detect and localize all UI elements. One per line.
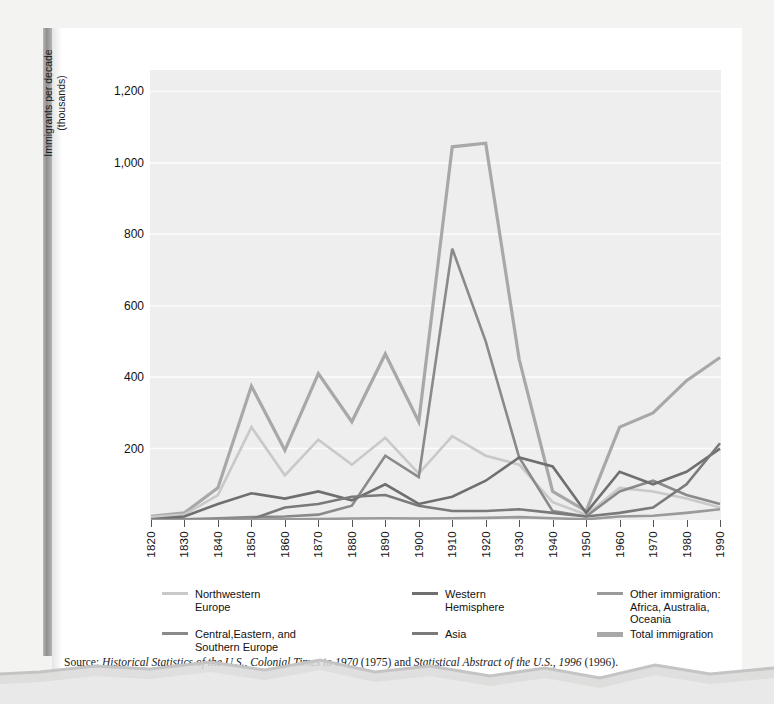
x-tick-mark [285, 520, 286, 527]
x-tick-label: 1820 [145, 531, 157, 558]
chart-legend: Northwestern EuropeWestern HemisphereOth… [162, 588, 722, 650]
x-tick-mark [553, 520, 554, 527]
y-axis-tick-labels: 2004006008001,0001,200 [92, 70, 144, 520]
x-tick-label: 1950 [580, 531, 592, 558]
y-tick-label: 400 [98, 371, 144, 383]
legend-label: Central,Eastern, and Southern Europe [195, 628, 296, 653]
legend-label: Asia [445, 628, 466, 641]
x-tick-mark [687, 520, 688, 527]
y-tick-label: 1,200 [98, 85, 144, 97]
x-tick-label: 1860 [279, 531, 291, 558]
x-tick-mark [151, 520, 152, 527]
x-tick-mark [519, 520, 520, 527]
x-tick-mark [385, 520, 386, 527]
x-tick-mark [318, 520, 319, 527]
y-tick-label: 1,000 [98, 157, 144, 169]
plot-area [150, 70, 721, 520]
x-tick-label: 1890 [379, 531, 391, 558]
x-tick-mark [486, 520, 487, 527]
legend-color-swatch [412, 632, 438, 635]
legend-label: Total immigration [630, 628, 713, 641]
x-tick-label: 1840 [212, 531, 224, 558]
decorative-mountain-band [0, 656, 774, 704]
x-tick-label: 1880 [346, 531, 358, 558]
y-axis-title: Immigrants per decade (thousands) [42, 18, 68, 188]
series-line [151, 427, 720, 517]
legend-color-swatch [162, 632, 188, 635]
legend-label: Western Hemisphere [445, 588, 504, 613]
x-tick-label: 1960 [614, 531, 626, 558]
x-tick-mark [620, 520, 621, 527]
x-tick-mark [184, 520, 185, 527]
figure-container: Immigrants per decade (thousands) 200400… [52, 28, 742, 676]
x-tick-label: 1870 [312, 531, 324, 558]
legend-label: Other immigration: Africa, Australia, Oc… [630, 588, 722, 626]
y-tick-label: 600 [98, 300, 144, 312]
x-tick-mark [452, 520, 453, 527]
x-tick-label: 1830 [178, 531, 190, 558]
x-tick-label: 1990 [714, 531, 726, 558]
y-tick-label: 200 [98, 443, 144, 455]
line-chart-svg [150, 70, 721, 520]
legend-item: Central,Eastern, and Southern Europe [162, 628, 296, 653]
x-axis-tick-labels: 1820183018401850186018701880189019001910… [150, 520, 721, 582]
x-tick-mark [653, 520, 654, 527]
y-tick-label: 800 [98, 228, 144, 240]
x-tick-mark [419, 520, 420, 527]
x-tick-label: 1850 [245, 531, 257, 558]
x-tick-mark [586, 520, 587, 527]
x-tick-label: 1970 [647, 531, 659, 558]
legend-item: Other immigration: Africa, Australia, Oc… [597, 588, 722, 626]
x-tick-label: 1920 [480, 531, 492, 558]
legend-color-swatch [597, 632, 623, 637]
legend-item: Northwestern Europe [162, 588, 260, 613]
x-tick-label: 1940 [547, 531, 559, 558]
legend-item: Total immigration [597, 628, 713, 641]
legend-item: Western Hemisphere [412, 588, 504, 613]
x-tick-label: 1910 [446, 531, 458, 558]
x-tick-mark [352, 520, 353, 527]
legend-item: Asia [412, 628, 466, 641]
legend-label: Northwestern Europe [195, 588, 260, 613]
x-tick-mark [218, 520, 219, 527]
legend-color-swatch [597, 592, 623, 595]
x-tick-label: 1930 [513, 531, 525, 558]
legend-color-swatch [412, 592, 438, 595]
x-tick-label: 1900 [413, 531, 425, 558]
x-tick-mark [251, 520, 252, 527]
legend-color-swatch [162, 592, 188, 595]
x-tick-label: 1980 [681, 531, 693, 558]
x-tick-mark [720, 520, 721, 527]
